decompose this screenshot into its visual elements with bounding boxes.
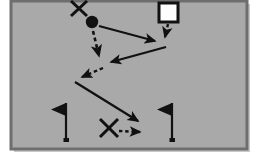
flag-base	[170, 138, 176, 142]
play-diagram-canvas	[0, 0, 257, 160]
square-marker-shape	[159, 3, 178, 22]
playing-field-inner	[13, 3, 245, 147]
play-diagram-container: Tactical play diagram X O □ X flag-marke…	[0, 0, 257, 160]
flag-base	[64, 138, 70, 142]
square-marker	[159, 3, 178, 22]
filled-circle-marker	[86, 16, 98, 28]
